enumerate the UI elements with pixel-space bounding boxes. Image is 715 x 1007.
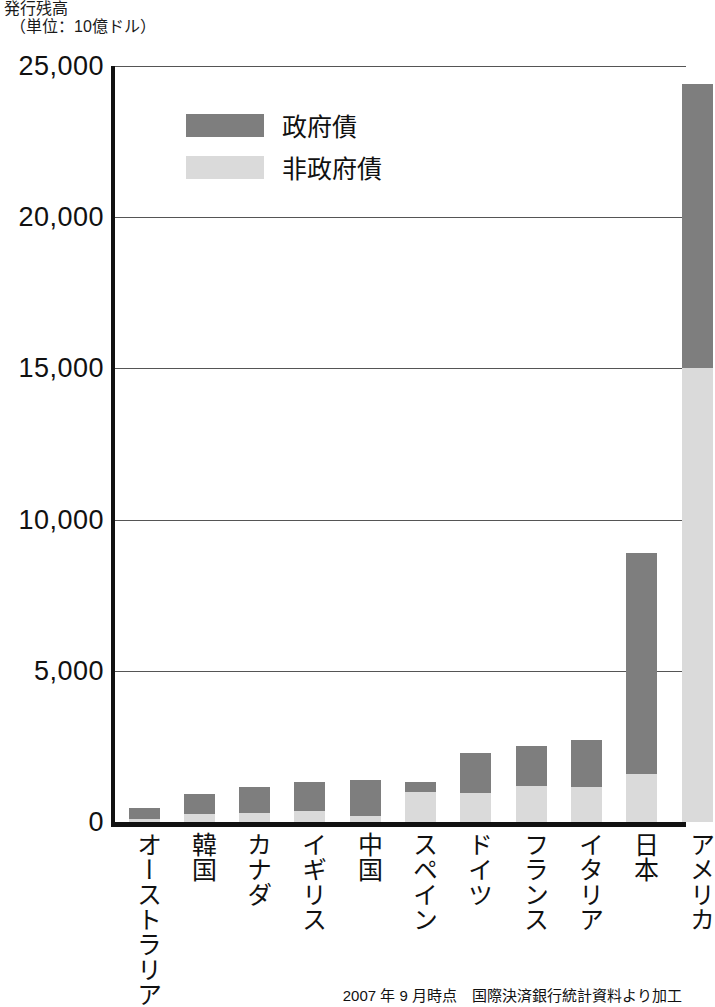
legend-item-non_government[interactable]: 非政府債 <box>186 150 382 184</box>
x-label-9: 日本 <box>626 832 657 882</box>
bar-segment-non-government <box>294 811 325 822</box>
bar-segment-government <box>571 740 602 787</box>
bar-segment-non-government <box>239 813 270 822</box>
x-label-2: カナダ <box>239 832 270 907</box>
bar-segment-government <box>405 782 436 792</box>
chart-header: 発行残高 （単位：10億ドル） <box>4 0 156 36</box>
bar-segment-non-government <box>516 786 547 822</box>
chart-title: 発行残高 <box>4 0 156 18</box>
y-tick-label-0: 0 <box>0 807 104 838</box>
bar-segment-government <box>239 787 270 813</box>
bar-segment-government <box>129 808 160 819</box>
gridline-20000 <box>115 217 686 218</box>
bar-segment-non-government <box>571 787 602 822</box>
bar-10[interactable] <box>682 84 713 822</box>
chart-legend: 政府債非政府債 <box>186 108 382 192</box>
legend-label-non_government: 非政府債 <box>282 149 382 185</box>
gridline-25000 <box>115 66 686 67</box>
bar-4[interactable] <box>350 780 381 822</box>
bar-segment-government <box>682 84 713 368</box>
x-axis-category-labels: オーストラリア韓国カナダイギリス中国スペインドイツフランスイタリア日本アメリカ <box>111 832 686 1007</box>
bar-3[interactable] <box>294 782 325 822</box>
bar-segment-non-government <box>184 814 215 822</box>
bar-0[interactable] <box>129 808 160 822</box>
x-axis-line <box>111 822 686 827</box>
bar-5[interactable] <box>405 782 436 822</box>
x-label-7: フランス <box>516 832 547 932</box>
gridline-10000 <box>115 520 686 521</box>
y-tick-label-5000: 5,000 <box>0 655 104 686</box>
source-note: 2007 年 9 月時点 国際決済銀行統計資料より加工 <box>343 984 682 1005</box>
bar-6[interactable] <box>460 753 491 822</box>
bar-segment-non-government <box>626 774 657 822</box>
y-tick-label-20000: 20,000 <box>0 202 104 233</box>
bar-segment-non-government <box>682 368 713 822</box>
bar-segment-government <box>460 753 491 793</box>
chart-unit-label: （単位：10億ドル） <box>4 18 156 36</box>
y-axis-tick-labels: 05,00010,00015,00020,00025,000 <box>0 66 104 826</box>
x-label-0: オーストラリア <box>129 832 160 1007</box>
y-tick-label-15000: 15,000 <box>0 353 104 384</box>
x-label-4: 中国 <box>350 832 381 882</box>
gridline-5000 <box>115 671 686 672</box>
legend-item-government[interactable]: 政府債 <box>186 108 382 142</box>
x-label-8: イタリア <box>571 832 602 932</box>
y-tick-label-10000: 10,000 <box>0 504 104 535</box>
bar-segment-non-government <box>405 792 436 822</box>
gridline-15000 <box>115 368 686 369</box>
x-label-10: アメリカ <box>682 832 713 932</box>
legend-label-government: 政府債 <box>282 107 357 143</box>
x-label-3: イギリス <box>294 832 325 932</box>
bar-segment-government <box>350 780 381 816</box>
x-label-1: 韓国 <box>184 832 215 882</box>
bar-8[interactable] <box>571 740 602 822</box>
legend-swatch-non_government <box>186 156 264 179</box>
bar-9[interactable] <box>626 553 657 822</box>
y-tick-label-25000: 25,000 <box>0 51 104 82</box>
bar-segment-non-government <box>460 793 491 822</box>
x-label-5: スペイン <box>405 832 436 932</box>
legend-swatch-government <box>186 114 264 137</box>
bar-segment-government <box>184 794 215 815</box>
y-axis-line <box>111 66 115 826</box>
bar-2[interactable] <box>239 787 270 822</box>
bar-1[interactable] <box>184 794 215 822</box>
x-label-6: ドイツ <box>460 832 491 907</box>
bar-segment-government <box>626 553 657 774</box>
bar-segment-government <box>516 746 547 785</box>
bar-segment-government <box>294 782 325 811</box>
bar-7[interactable] <box>516 746 547 822</box>
